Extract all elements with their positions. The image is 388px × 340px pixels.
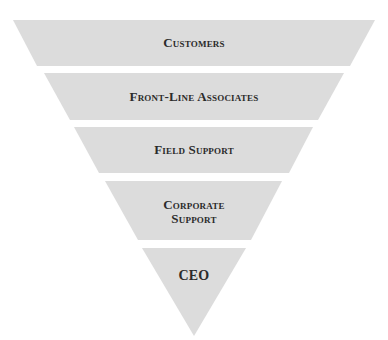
pyramid-shapes <box>0 0 388 340</box>
level-label-corporate-support-line2: Support <box>0 212 388 226</box>
level-label-front-line-associates: Front-Line Associates <box>0 90 388 104</box>
level-ceo-band <box>142 248 246 336</box>
level-label-corporate-support-line1: Corporate <box>0 198 388 212</box>
level-label-field-support: Field Support <box>0 143 388 157</box>
level-label-ceo: CEO <box>0 269 388 283</box>
level-label-customers: Customers <box>0 36 388 50</box>
inverted-pyramid-diagram: Customers Front-Line Associates Field Su… <box>0 0 388 340</box>
